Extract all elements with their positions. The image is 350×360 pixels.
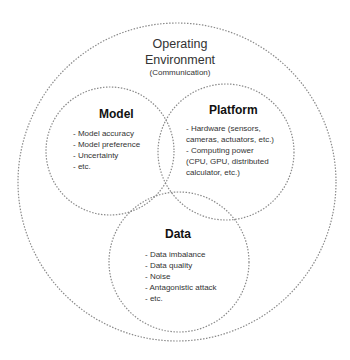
list-item: calculator, etc.) [186,167,274,178]
list-item: - Computing power [186,145,274,156]
operating-environment-label: Operating Environment (Communication) [125,36,235,78]
data-list: - Data imbalance - Data quality - Noise … [145,249,217,304]
list-item: cameras, actuators, etc.) [186,134,274,145]
list-item: - etc. [145,293,217,304]
platform-list: - Hardware (sensors, cameras, actuators,… [186,123,274,178]
list-item: - Data quality [145,260,217,271]
list-item: - Model preference [73,139,140,150]
env-subtitle: (Communication) [125,68,235,78]
list-item: - etc. [73,161,140,172]
env-title-line1: Operating [125,36,235,52]
list-item: - Hardware (sensors, [186,123,274,134]
list-item: (CPU, GPU, distributed [186,156,274,167]
list-item: - Uncertainty [73,150,140,161]
list-item: - Noise [145,271,217,282]
list-item: - Antagonistic attack [145,282,217,293]
data-title: Data [165,227,191,241]
list-item: - Model accuracy [73,128,140,139]
model-list: - Model accuracy - Model preference - Un… [73,128,140,172]
model-title: Model [99,107,134,121]
env-title-line2: Environment [125,52,235,68]
list-item: - Data imbalance [145,249,217,260]
platform-title: Platform [209,103,258,117]
